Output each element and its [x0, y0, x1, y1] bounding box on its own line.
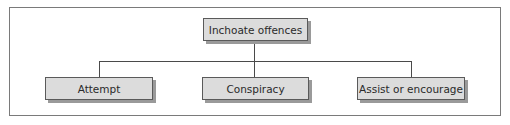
node-assist-or-encourage: Assist or encourage: [357, 77, 465, 100]
connector-attempt: [99, 61, 100, 77]
node-conspiracy: Conspiracy: [202, 77, 309, 100]
node-label: Attempt: [78, 83, 121, 95]
connector-conspiracy: [254, 61, 255, 77]
node-attempt: Attempt: [45, 77, 153, 100]
connector-root-down: [254, 41, 255, 61]
node-label: Inchoate offences: [209, 24, 302, 36]
node-label: Assist or encourage: [359, 83, 463, 95]
connector-horizontal: [99, 61, 412, 62]
node-inchoate-offences: Inchoate offences: [203, 18, 308, 41]
connector-assist: [411, 61, 412, 77]
node-label: Conspiracy: [226, 83, 284, 95]
